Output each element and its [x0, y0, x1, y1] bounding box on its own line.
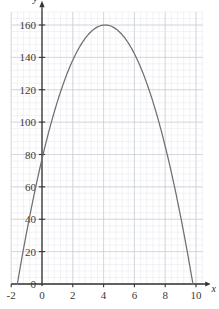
graph-figure: -20246810 020406080100120140160 x y [0, 0, 219, 309]
y-tick-label: 40 [25, 213, 37, 225]
x-tick-label: 6 [132, 289, 138, 301]
y-tick-label: 160 [20, 19, 37, 31]
y-tick-label: 120 [20, 84, 37, 96]
x-tick-label: 8 [162, 289, 168, 301]
y-tick-label: 20 [25, 246, 37, 258]
y-tick-label: 100 [20, 116, 37, 128]
y-tick-label: 140 [20, 51, 37, 63]
y-tick-label: 0 [31, 278, 37, 290]
y-tick-label: 80 [25, 149, 37, 161]
parabola-chart: -20246810 020406080100120140160 x y [0, 0, 219, 309]
x-tick-label: 2 [70, 289, 76, 301]
axes [11, 1, 210, 287]
minor-gridlines [11, 12, 203, 284]
x-tick-label: 4 [101, 289, 107, 301]
x-tick-label: 10 [191, 289, 203, 301]
x-tick-label: 0 [39, 289, 45, 301]
x-axis-tick-labels: -20246810 [7, 289, 202, 301]
x-axis-label: x [210, 283, 216, 294]
y-axis-label: y [32, 0, 38, 4]
x-tick-label: -2 [7, 289, 16, 301]
